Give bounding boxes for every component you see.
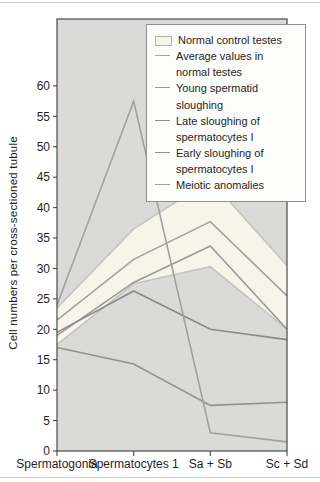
legend-item: Late sloughing of spermatocytes I (155, 113, 300, 145)
line-swatch-icon (155, 55, 170, 56)
legend-item: Normal control testes (155, 32, 300, 48)
y-tick-label: 15 (37, 353, 51, 367)
figure: 051015202530354045505560SpermatogoniaSpe… (0, 0, 320, 482)
line-swatch-icon (155, 120, 170, 121)
line-swatch-icon (155, 152, 170, 153)
y-tick-label: 60 (37, 79, 51, 93)
legend-label: Normal control testes (178, 32, 282, 48)
x-category-label: Sa + Sb (189, 457, 232, 471)
y-tick-label: 25 (37, 292, 51, 306)
legend-label: Meiotic anomalies (176, 177, 264, 193)
legend-item: Average values in normal testes (155, 48, 300, 80)
y-tick-label: 10 (37, 383, 51, 397)
y-tick-label: 50 (37, 140, 51, 154)
x-category-label: Spermatocytes 1 (89, 457, 179, 471)
legend: Normal control testes Average values in … (146, 24, 306, 202)
y-tick-label: 55 (37, 110, 51, 124)
line-swatch-icon (155, 184, 170, 185)
band-swatch-icon (155, 36, 172, 46)
legend-item: Young spermatid sloughing (155, 80, 300, 112)
figure-bottom-border (0, 477, 320, 478)
x-category-label: Spermatogonia (16, 457, 98, 471)
legend-item: Early sloughing of spermatocytes I (155, 145, 300, 177)
y-axis-title: Cell numbers per cross-sectioned tubule (7, 136, 19, 350)
y-tick-label: 5 (43, 414, 50, 428)
legend-label: Average values in normal testes (176, 48, 263, 80)
legend-label: Early sloughing of spermatocytes I (176, 145, 263, 177)
y-tick-label: 30 (37, 262, 51, 276)
y-tick-label: 45 (37, 170, 51, 184)
y-tick-label: 40 (37, 201, 51, 215)
legend-item: Meiotic anomalies (155, 177, 300, 193)
y-tick-label: 20 (37, 323, 51, 337)
x-category-label: Sc + Sd (266, 457, 308, 471)
y-tick-label: 35 (37, 231, 51, 245)
line-swatch-icon (155, 87, 170, 88)
legend-label: Late sloughing of spermatocytes I (176, 113, 260, 145)
legend-label: Young spermatid sloughing (176, 80, 258, 112)
